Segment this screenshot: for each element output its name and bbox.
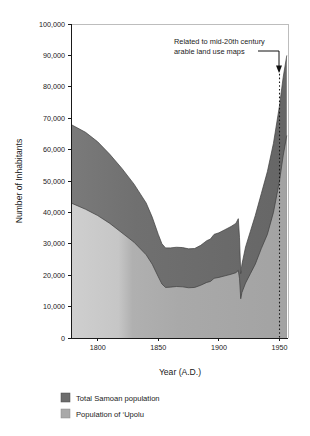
y-tick-label: 90,000 [43, 51, 65, 60]
legend-label-upolu: Population of ‘Upolu [76, 410, 144, 419]
x-tick-label: 1900 [211, 343, 227, 352]
y-tick-label: 60,000 [43, 145, 65, 154]
y-tick-label: 0 [61, 334, 65, 343]
y-tick-label: 10,000 [43, 302, 65, 311]
x-axis-ticks: 1800185019001950 [90, 338, 288, 352]
x-axis-title: Year (A.D.) [159, 367, 201, 377]
annotation-line-2: arable land use maps [174, 47, 245, 56]
x-tick-label: 1800 [90, 343, 106, 352]
annotation-line-1: Related to mid-20th century [174, 37, 265, 46]
chart-legend: Total Samoan population Population of ‘U… [61, 393, 160, 419]
population-area-chart: 010,00020,00030,00040,00050,00060,00070,… [0, 0, 310, 436]
legend-swatch-upolu [61, 409, 70, 418]
x-tick-label: 1950 [272, 343, 288, 352]
y-tick-label: 20,000 [43, 271, 65, 280]
y-axis-title: Number of Inhabitants [14, 139, 24, 224]
legend-swatch-total-samoan [61, 393, 70, 402]
y-tick-label: 40,000 [43, 208, 65, 217]
y-tick-label: 100,000 [39, 20, 65, 29]
y-axis-ticks: 010,00020,00030,00040,00050,00060,00070,… [39, 20, 71, 343]
chart-figure: 010,00020,00030,00040,00050,00060,00070,… [0, 0, 310, 436]
y-tick-label: 70,000 [43, 114, 65, 123]
y-tick-label: 50,000 [43, 177, 65, 186]
legend-label-total-samoan: Total Samoan population [76, 394, 160, 403]
y-tick-label: 80,000 [43, 82, 65, 91]
y-tick-label: 30,000 [43, 239, 65, 248]
x-tick-label: 1850 [150, 343, 166, 352]
